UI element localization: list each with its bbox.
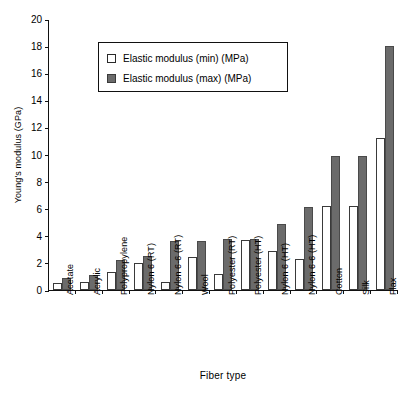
x-axis-label: Flax	[388, 278, 398, 295]
y-tick-label: 4	[36, 230, 42, 243]
y-tick-label: 8	[36, 176, 42, 189]
legend: Elastic modulus (min) (MPa) Elastic modu…	[98, 42, 288, 92]
y-axis-title: Young's modulus (GPa)	[13, 75, 23, 235]
bar-min	[188, 257, 197, 290]
x-axis-label: Polyester (RT)	[227, 236, 237, 295]
x-axis-label: Nylon 6-6 (RT)	[173, 235, 183, 295]
legend-swatch-max-icon	[107, 74, 116, 83]
y-tick-label: 0	[36, 284, 42, 297]
y-tick-label: 20	[31, 13, 42, 26]
bar-max	[385, 46, 394, 290]
bar-chart: Young's modulus (GPa) 20181614121086420 …	[0, 0, 420, 398]
x-axis-label: Wool	[200, 274, 210, 295]
x-axis-label: Nylon 6-6 (HT)	[307, 235, 317, 295]
bar-min	[80, 282, 89, 290]
y-tick-label: 14	[31, 94, 42, 107]
bar-min	[134, 263, 143, 290]
x-axis-label: Acetate	[65, 264, 75, 295]
bar-min	[241, 240, 250, 290]
y-tick-label: 10	[31, 149, 42, 162]
y-tick-label: 16	[31, 67, 42, 80]
bar-group	[317, 20, 344, 290]
bar-min	[161, 282, 170, 290]
y-tick-label: 12	[31, 121, 42, 134]
bar-min	[349, 206, 358, 290]
y-tick-label: 2	[36, 257, 42, 270]
bar-min	[295, 259, 304, 290]
bar-group	[49, 20, 76, 290]
bar-max	[358, 156, 367, 290]
x-axis-label: Polyester (HT)	[253, 236, 263, 295]
x-axis-label: Nylon 6 (HT)	[280, 243, 290, 295]
legend-label-max: Elastic modulus (max) (MPa)	[123, 73, 251, 84]
x-axis-label: Silk	[361, 280, 371, 295]
bar-group	[344, 20, 371, 290]
x-axis-label: Acrylic	[92, 268, 102, 295]
bar-min	[53, 283, 62, 290]
bar-min	[322, 206, 331, 290]
bar-min	[376, 138, 385, 290]
y-tick-label: 6	[36, 203, 42, 216]
legend-item-min: Elastic modulus (min) (MPa)	[107, 49, 279, 68]
y-tick-label: 18	[31, 40, 42, 53]
x-axis-label: Polypropylene	[119, 237, 129, 295]
bar-min	[268, 251, 277, 290]
legend-item-max: Elastic modulus (max) (MPa)	[107, 69, 279, 88]
bar-min	[107, 272, 116, 290]
x-axis-title: Fiber type	[48, 370, 398, 381]
x-axis-label: Nylon 6 (RT)	[146, 243, 156, 295]
y-tick-mark	[45, 291, 49, 292]
legend-swatch-min-icon	[107, 54, 116, 63]
legend-label-min: Elastic modulus (min) (MPa)	[123, 53, 249, 64]
x-axis-label: Cotton	[334, 268, 344, 295]
bar-min	[214, 274, 223, 290]
bar-group	[371, 20, 398, 290]
